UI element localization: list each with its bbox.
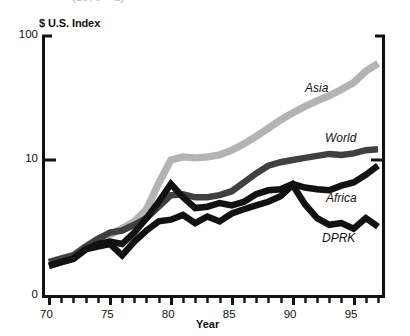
y-tick-label-100: 100 <box>6 28 38 40</box>
chart-figure: (1970 = 1) $ U.S. Index 100100 707580859… <box>0 0 410 336</box>
series-label-africa: Africa <box>326 191 357 205</box>
y-tick-label-0: 0 <box>6 288 38 300</box>
x-tick-label-85: 85 <box>223 308 236 320</box>
plot-area <box>0 0 410 336</box>
y-tick-label-10: 10 <box>6 152 38 164</box>
x-axis-ticks <box>50 297 379 305</box>
x-tick-label-75: 75 <box>101 308 114 320</box>
x-tick-label-90: 90 <box>284 308 297 320</box>
x-tick-label-95: 95 <box>345 308 358 320</box>
series-label-world: World <box>325 131 356 145</box>
series-label-asia: Asia <box>305 81 328 95</box>
x-axis-title: Year <box>196 318 219 330</box>
x-tick-label-70: 70 <box>40 308 53 320</box>
series-label-dprk: DPRK <box>322 231 355 245</box>
x-tick-label-80: 80 <box>162 308 175 320</box>
axis-lines <box>42 36 385 298</box>
